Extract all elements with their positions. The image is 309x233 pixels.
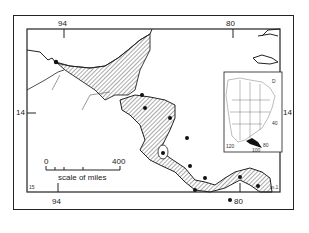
latitude-label-left-14: 14	[16, 108, 25, 117]
inset-label-120: 120	[226, 143, 234, 149]
longitude-label-bottom-80: 80	[234, 197, 243, 206]
scale-caption: scale of miles	[58, 173, 106, 182]
range-area-north	[56, 34, 150, 100]
inset-label-d: D	[272, 78, 276, 84]
map-canvas	[0, 0, 309, 233]
inset-label-100: 100	[252, 147, 260, 153]
latitude-label-right-14: 14	[283, 108, 292, 117]
longitude-label-top-80: 80	[226, 19, 235, 28]
scale-start-label: 0	[44, 157, 48, 166]
inset-label-40: 40	[272, 120, 278, 126]
inset-label-80: 80	[263, 142, 269, 148]
corner-label-bottom-left: 15	[29, 184, 35, 190]
corner-label-bottom-right: m.1	[270, 184, 278, 190]
longitude-label-bottom-94: 94	[52, 197, 61, 206]
longitude-label-top-94: 94	[58, 19, 67, 28]
scale-end-label: 400	[112, 157, 125, 166]
